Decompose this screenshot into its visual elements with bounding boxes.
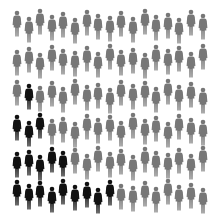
person-icon xyxy=(198,43,208,71)
person-icon xyxy=(163,152,173,180)
person-icon xyxy=(198,87,208,115)
person-icon xyxy=(140,52,150,80)
person-icon xyxy=(47,44,57,72)
person-icon-highlighted xyxy=(58,150,68,178)
person-icon xyxy=(105,87,115,115)
person-icon-highlighted xyxy=(12,114,22,142)
person-icon-highlighted xyxy=(12,179,22,207)
person-icon xyxy=(163,178,173,206)
person-icon xyxy=(93,51,103,79)
person-icon-highlighted xyxy=(35,180,45,208)
person-icon xyxy=(93,13,103,41)
person-icon xyxy=(128,16,138,44)
person-icon xyxy=(186,182,196,210)
person-icon xyxy=(186,117,196,145)
person-icon xyxy=(186,51,196,79)
person-icon xyxy=(163,78,173,106)
person-icon-highlighted xyxy=(70,184,80,212)
person-icon xyxy=(70,50,80,78)
person-icon xyxy=(151,150,161,178)
person-icon-highlighted xyxy=(24,183,34,211)
person-icon xyxy=(24,16,34,44)
person-icon xyxy=(140,146,150,174)
person-icon xyxy=(174,147,184,175)
person-icon xyxy=(47,80,57,108)
person-icon-highlighted xyxy=(93,187,103,215)
person-icon-highlighted xyxy=(12,151,22,179)
person-icon xyxy=(12,79,22,107)
person-icon-highlighted xyxy=(58,178,68,206)
person-icon xyxy=(82,113,92,141)
person-icon xyxy=(116,79,126,107)
person-icon xyxy=(105,114,115,142)
person-icon xyxy=(82,9,92,37)
person-icon xyxy=(151,86,161,114)
person-icon xyxy=(70,17,80,45)
person-icon xyxy=(47,14,57,42)
person-icon xyxy=(128,154,138,182)
person-icon xyxy=(58,48,68,76)
person-icon xyxy=(151,186,161,214)
person-icon xyxy=(35,85,45,113)
person-icon-highlighted xyxy=(24,83,34,111)
person-icon xyxy=(58,116,68,144)
person-icon xyxy=(198,187,208,215)
person-icon xyxy=(163,12,173,40)
person-icon xyxy=(116,120,126,148)
person-icon xyxy=(82,153,92,181)
person-icon-highlighted xyxy=(47,146,57,174)
person-icon xyxy=(186,153,196,181)
person-icon xyxy=(174,184,184,212)
person-icon xyxy=(58,86,68,114)
person-icon-highlighted xyxy=(105,179,115,207)
person-icon xyxy=(128,83,138,111)
person-icon xyxy=(93,82,103,110)
people-infographic xyxy=(0,0,214,221)
person-icon xyxy=(128,185,138,213)
person-icon xyxy=(174,84,184,112)
person-icon-highlighted xyxy=(24,149,34,177)
person-icon-highlighted xyxy=(24,120,34,148)
person-icon xyxy=(186,9,196,37)
person-icon xyxy=(105,151,115,179)
person-icon xyxy=(35,52,45,80)
person-icon xyxy=(174,45,184,73)
person-icon xyxy=(12,49,22,77)
person-icon xyxy=(140,80,150,108)
person-icon xyxy=(140,180,150,208)
person-icon-highlighted xyxy=(82,181,92,209)
person-icon xyxy=(174,17,184,45)
person-icon xyxy=(35,8,45,36)
person-icon-highlighted xyxy=(35,154,45,182)
person-icon xyxy=(151,44,161,72)
person-icon xyxy=(163,48,173,76)
person-icon xyxy=(82,84,92,112)
person-icon xyxy=(128,112,138,140)
person-icon xyxy=(93,145,103,173)
person-icon xyxy=(24,46,34,74)
person-icon-highlighted xyxy=(47,186,57,214)
person-icon xyxy=(58,11,68,39)
person-icon xyxy=(116,49,126,77)
person-icon xyxy=(116,10,126,38)
person-icon xyxy=(198,145,208,173)
person-icon xyxy=(128,47,138,75)
person-icon xyxy=(105,15,115,43)
person-icon xyxy=(186,81,196,109)
person-icon xyxy=(105,43,115,71)
person-icon xyxy=(140,118,150,146)
person-icon xyxy=(174,113,184,141)
person-icon xyxy=(151,115,161,143)
person-icon xyxy=(198,13,208,41)
person-icon xyxy=(116,183,126,211)
person-icon xyxy=(198,119,208,147)
person-icon xyxy=(116,148,126,176)
person-icon xyxy=(82,45,92,73)
person-icon-highlighted xyxy=(35,112,45,140)
person-icon xyxy=(70,147,80,175)
person-icon xyxy=(47,118,57,146)
person-icon xyxy=(140,8,150,36)
person-icon xyxy=(12,10,22,38)
person-icon xyxy=(70,78,80,106)
person-icon xyxy=(163,121,173,149)
